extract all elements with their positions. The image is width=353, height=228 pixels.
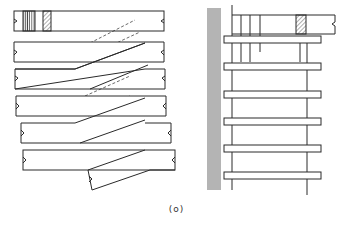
right-elevation [208, 5, 335, 195]
technical-diagram: (o) [0, 0, 353, 228]
plank-5 [21, 123, 171, 143]
figure-caption: (o) [0, 204, 353, 214]
plank-1 [14, 11, 164, 31]
cross-rails [224, 36, 321, 179]
post-lines [208, 8, 220, 190]
left-plank-stack [14, 11, 175, 190]
diagram-drawing [0, 0, 353, 228]
plank-2 [14, 42, 164, 62]
plank-6 [23, 150, 175, 170]
